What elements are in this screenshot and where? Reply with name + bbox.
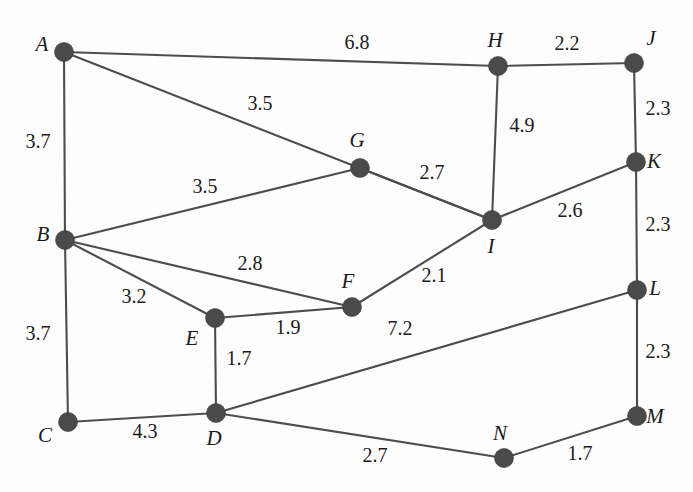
edge-weight-a-i: 3.5 <box>248 92 273 114</box>
graph-node-j[interactable] <box>625 54 644 73</box>
edge-weight-c-d: 4.3 <box>133 420 158 442</box>
edges-layer <box>64 52 637 458</box>
node-label-g: G <box>349 128 364 152</box>
graph-edge-a-h <box>64 52 498 66</box>
edge-weight-j-k: 2.3 <box>646 97 671 119</box>
graph-edge-b-f <box>65 240 352 307</box>
edge-weight-h-j: 2.2 <box>555 32 580 54</box>
graph-node-b[interactable] <box>56 231 75 250</box>
node-label-h: H <box>486 28 504 52</box>
node-label-k: K <box>646 149 662 173</box>
node-label-j: J <box>646 26 657 50</box>
graph-edge-j-k <box>634 63 636 162</box>
graph-node-e[interactable] <box>206 309 225 328</box>
edge-weight-b-g: 3.5 <box>193 175 218 197</box>
edge-weight-h-i: 4.9 <box>510 114 535 136</box>
edge-weight-e-f: 1.9 <box>276 316 301 338</box>
node-label-c: C <box>38 423 53 447</box>
graph-node-d[interactable] <box>207 404 226 423</box>
graph-node-h[interactable] <box>489 57 508 76</box>
node-label-i: I <box>487 234 496 258</box>
graph-node-f[interactable] <box>343 298 362 317</box>
node-label-f: F <box>341 269 355 293</box>
graph-edge-d-n <box>216 413 504 458</box>
node-label-n: N <box>492 421 508 445</box>
graph-node-i[interactable] <box>483 211 502 230</box>
edge-weight-e-d: 1.7 <box>227 347 252 369</box>
edge-weight-f-i: 2.1 <box>422 264 447 286</box>
graph-edge-a-b <box>64 52 65 240</box>
node-label-m: M <box>645 404 665 428</box>
edge-weight-d-l: 7.2 <box>388 317 413 339</box>
node-label-l: L <box>648 276 661 300</box>
graph-node-n[interactable] <box>495 449 514 468</box>
node-label-a: A <box>34 32 49 56</box>
graph-edge-d-l <box>216 290 637 413</box>
weight-labels-layer: 6.83.73.53.52.83.23.74.31.91.72.12.72.24… <box>26 31 671 466</box>
edge-weight-a-h: 6.8 <box>345 31 370 53</box>
edge-weight-b-e: 3.2 <box>122 285 147 307</box>
edge-weight-g-i: 2.7 <box>420 161 445 183</box>
edge-weight-n-m: 1.7 <box>568 442 593 464</box>
graph-node-k[interactable] <box>627 153 646 172</box>
graph-edge-b-c <box>65 240 68 422</box>
edge-weight-k-l: 2.3 <box>646 213 671 235</box>
graph-canvas: ABCDEFGHIJKLMN 6.83.73.53.52.83.23.74.31… <box>0 0 693 492</box>
node-label-b: B <box>37 222 50 246</box>
graph-node-c[interactable] <box>59 413 78 432</box>
graph-node-m[interactable] <box>628 407 647 426</box>
graph-edge-h-i <box>492 66 498 220</box>
edge-weight-d-n: 2.7 <box>363 444 388 466</box>
graph-figure: ABCDEFGHIJKLMN 6.83.73.53.52.83.23.74.31… <box>0 0 693 492</box>
edge-weight-l-m: 2.3 <box>646 340 671 362</box>
edge-weight-a-b: 3.7 <box>26 130 51 152</box>
node-label-d: D <box>205 426 221 450</box>
graph-edge-h-j <box>498 63 634 66</box>
graph-edge-k-l <box>636 162 637 290</box>
edge-weight-b-c: 3.7 <box>26 322 51 344</box>
edge-weight-b-f: 2.8 <box>238 252 263 274</box>
graph-edge-e-d <box>215 318 216 413</box>
graph-node-a[interactable] <box>55 43 74 62</box>
graph-node-g[interactable] <box>351 159 370 178</box>
node-label-e: E <box>185 326 199 350</box>
nodes-layer <box>55 43 647 468</box>
edge-weight-i-k: 2.6 <box>558 199 583 221</box>
graph-node-l[interactable] <box>628 281 647 300</box>
vertex-labels-layer: ABCDEFGHIJKLMN <box>34 26 666 450</box>
